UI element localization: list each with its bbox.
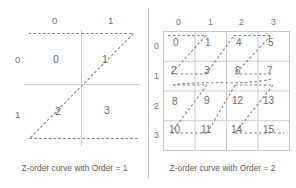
order-1-col-label-0: 0 <box>52 16 57 26</box>
order-2-cell-5: 5 <box>268 38 274 48</box>
order-2-cell-2: 2 <box>171 66 177 76</box>
order-2-row-label-2: 2 <box>154 102 159 111</box>
order-1-row-label-0: 0 <box>15 55 20 65</box>
panel-order-1: 0 1 0 1 0 1 2 3 Z-order curve with Order… <box>0 0 149 188</box>
panel-order-2: 0 1 2 3 0 1 2 3 0 1 4 5 2 3 6 7 8 9 12 1… <box>149 0 296 188</box>
order-1-cell-1: 1 <box>102 54 108 65</box>
order-2-col-label-0: 0 <box>176 18 181 27</box>
order-1-cell-2: 2 <box>55 106 61 117</box>
order-1-drawing <box>0 0 149 188</box>
order-1-caption: Z-order curve with Order = 1 <box>0 163 149 173</box>
order-2-cell-0: 0 <box>173 38 179 48</box>
order-2-cell-11: 11 <box>201 125 211 135</box>
order-1-cell-0: 0 <box>53 54 59 65</box>
order-2-cell-3: 3 <box>204 66 210 76</box>
order-2-cell-1: 1 <box>205 38 211 48</box>
order-1-z-curve <box>29 34 141 139</box>
order-2-cell-14: 14 <box>231 125 242 135</box>
order-1-col-label-1: 1 <box>108 16 113 26</box>
order-1-axes <box>24 30 140 146</box>
order-2-col-label-1: 1 <box>208 18 213 27</box>
order-2-caption: Z-order curve with Order = 2 <box>149 163 296 173</box>
order-2-cell-12: 12 <box>232 96 243 106</box>
order-2-col-label-3: 3 <box>271 18 276 27</box>
order-2-cell-13: 13 <box>263 96 274 106</box>
order-2-cell-10: 10 <box>169 125 180 135</box>
order-2-cell-7: 7 <box>267 66 273 76</box>
order-2-cell-6: 6 <box>235 66 241 76</box>
z-order-curve-figure: 0 1 0 1 0 1 2 3 Z-order curve with Order… <box>0 0 296 188</box>
order-2-row-label-0: 0 <box>154 42 159 51</box>
order-2-cell-4: 4 <box>236 38 242 48</box>
order-1-row-label-1: 1 <box>15 110 20 120</box>
order-2-row-label-3: 3 <box>154 131 159 140</box>
order-2-drawing <box>149 0 296 188</box>
order-2-cell-15: 15 <box>263 125 274 135</box>
order-1-cell-3: 3 <box>104 105 110 116</box>
order-2-col-label-2: 2 <box>239 18 244 27</box>
order-2-row-label-1: 1 <box>154 72 159 81</box>
order-2-cell-8: 8 <box>172 97 178 107</box>
order-2-cell-9: 9 <box>204 96 210 106</box>
